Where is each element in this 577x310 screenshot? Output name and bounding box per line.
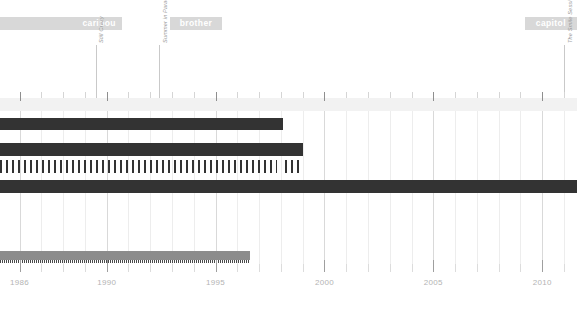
top-tick [172,92,173,98]
bar-segment-dashed [0,160,277,173]
top-tick [63,92,64,98]
annotation-stem [96,45,97,103]
bar-segment-dashed [285,160,302,173]
axis-tick [237,264,238,272]
annotation-label-summer-in-paradise: Summer in Paradise [162,0,168,43]
axis-tick [564,264,565,272]
axis-tick [542,260,543,272]
axis-tick [455,264,456,272]
top-tick [281,92,282,98]
axis-tick [128,264,129,272]
top-tick [216,92,217,101]
group-banner-label: brother [180,19,213,28]
plot-header-band [0,98,577,111]
top-tick [564,92,565,98]
top-tick [390,92,391,98]
axis-tick [520,264,521,272]
top-tick [455,92,456,98]
bar-segment [0,118,283,130]
axis-tick [499,264,500,272]
top-tick [346,92,347,98]
bar-segment-underline [0,260,250,263]
top-tick [433,92,434,101]
top-tick [520,92,521,98]
top-tick [259,92,260,98]
axis-tick [303,264,304,272]
axis-tick-label: 2005 [424,278,443,287]
top-tick [237,92,238,98]
axis-tick [368,264,369,272]
timeline-chart: caribou brother capitol Still Crazy Summ… [0,0,577,310]
top-tick [194,92,195,98]
axis-tick [477,264,478,272]
axis-tick [107,260,108,272]
top-tick [499,92,500,98]
top-tick [107,92,108,101]
group-banner-brother[interactable]: brother [170,17,222,30]
axis-tick [324,260,325,272]
axis-tick [281,264,282,272]
axis-tick [63,264,64,272]
axis-tick [150,264,151,272]
bar-segment-grey [0,251,250,260]
axis-tick [346,264,347,272]
axis-tick-label: 1995 [206,278,225,287]
top-tick [324,92,325,101]
axis-tick [433,260,434,272]
axis-tick [390,264,391,272]
bar-segment [0,143,303,156]
top-tick [542,92,543,101]
top-tick [128,92,129,98]
axis-tick [259,264,260,272]
axis-tick-label: 2000 [315,278,334,287]
bar-segment [0,180,577,193]
top-tick [368,92,369,98]
annotation-stem [159,45,160,103]
axis-tick-label: 1990 [97,278,116,287]
axis-tick-label: 2010 [533,278,552,287]
top-tick [412,92,413,98]
top-tick [150,92,151,98]
top-tick [41,92,42,98]
axis-tick [41,264,42,272]
top-tick [477,92,478,98]
annotation-label-still-crazy: Still Crazy [98,16,104,43]
axis-tick [85,264,86,272]
axis-tick [194,264,195,272]
axis-tick [172,264,173,272]
top-tick [303,92,304,98]
axis-tick [20,260,21,272]
axis-tick [412,264,413,272]
top-tick [85,92,86,98]
group-banner-label: capitol [536,19,566,28]
axis-tick-label: 1986 [10,278,29,287]
annotation-label-the-smile-sessions: The Smile Sessions [567,0,573,43]
axis-tick [216,260,217,272]
top-tick [20,92,21,101]
